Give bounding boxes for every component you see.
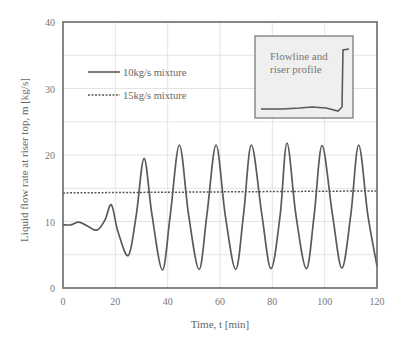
x-tick-label: 60 xyxy=(215,296,225,307)
y-tick-label: 40 xyxy=(45,17,55,28)
legend-solid-label: 10kg/s mixture xyxy=(123,67,187,78)
y-tick-label: 10 xyxy=(45,217,55,228)
y-tick-label: 0 xyxy=(50,283,55,294)
x-tick-label: 20 xyxy=(110,296,120,307)
inset-title-line2: riser profile xyxy=(270,63,322,75)
y-tick-label: 20 xyxy=(45,150,55,161)
y-tick-label: 30 xyxy=(45,84,55,95)
x-tick-label: 120 xyxy=(370,296,385,307)
x-axis-ticks: 020406080100120 xyxy=(61,296,385,307)
legend: 10kg/s mixture 15kg/s mixture xyxy=(88,67,187,101)
x-axis-label: Time, t [min] xyxy=(191,318,250,330)
line-chart: 010203040 020406080100120 10kg/s mixture… xyxy=(0,0,409,343)
y-axis-ticks: 010203040 xyxy=(45,17,55,294)
x-tick-label: 40 xyxy=(163,296,173,307)
x-tick-label: 0 xyxy=(61,296,66,307)
y-axis-label: Liquid flow rate at riser top, m [kg/s] xyxy=(18,78,30,242)
x-tick-label: 80 xyxy=(267,296,277,307)
inset-title-line1: Flowline and xyxy=(270,50,328,62)
x-tick-label: 100 xyxy=(317,296,332,307)
legend-dashed-label: 15kg/s mixture xyxy=(123,90,187,101)
inset-profile: Flowline and riser profile xyxy=(255,36,353,118)
inset-box xyxy=(255,36,353,118)
